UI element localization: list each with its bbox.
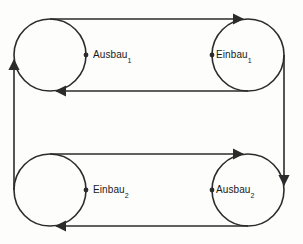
node-label-ausbau2: Ausbau2 (216, 185, 255, 195)
diagram-canvas: Ausbau1 Einbau1 Einbau2 Ausbau2 (0, 0, 303, 244)
marker-dot-einbau1 (210, 53, 215, 58)
marker-dot-einbau2 (84, 188, 89, 193)
node-label-subscript: 1 (128, 57, 132, 64)
node-marker-dots (84, 53, 215, 193)
node-label-subscript: 2 (251, 192, 255, 199)
node-label-text: Ausbau (93, 49, 128, 60)
node-circle-ausbau1[interactable] (14, 19, 86, 91)
marker-dot-ausbau1 (84, 53, 89, 58)
node-label-text: Einbau (93, 184, 125, 195)
node-label-einbau2: Einbau2 (93, 185, 129, 195)
marker-dot-ausbau2 (210, 188, 215, 193)
node-label-ausbau1: Ausbau1 (93, 50, 132, 60)
diagram-svg (0, 0, 303, 244)
node-label-text: Ausbau (216, 184, 251, 195)
node-label-subscript: 1 (248, 57, 252, 64)
node-label-einbau1: Einbau1 (216, 50, 252, 60)
node-circle-einbau2[interactable] (14, 154, 86, 226)
node-label-text: Einbau (216, 49, 248, 60)
node-label-subscript: 2 (125, 192, 129, 199)
